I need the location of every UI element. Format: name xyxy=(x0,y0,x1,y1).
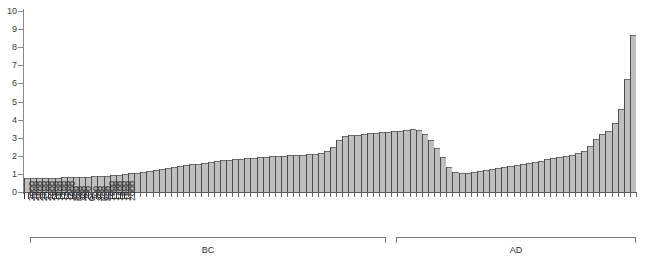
x-tick xyxy=(250,193,251,197)
x-tick xyxy=(452,193,453,197)
x-tick xyxy=(165,193,166,197)
x-tick xyxy=(238,193,239,197)
x-tick xyxy=(556,193,557,197)
bar-cap xyxy=(435,148,440,149)
y-tick xyxy=(18,83,23,84)
x-tick xyxy=(159,193,160,197)
bar-cap xyxy=(447,167,452,168)
x-tick xyxy=(416,193,417,197)
bar-cap xyxy=(631,35,636,36)
x-tick xyxy=(397,193,398,197)
x-tick xyxy=(532,193,533,197)
era-label-bc: BC xyxy=(30,246,386,255)
x-tick xyxy=(263,193,264,197)
x-tick xyxy=(299,193,300,197)
x-tick xyxy=(605,193,606,197)
y-tick xyxy=(18,29,23,30)
y-tick-label: 0 xyxy=(0,188,17,197)
era-bracket-bc xyxy=(30,237,386,243)
x-tick xyxy=(507,193,508,197)
x-tick xyxy=(544,193,545,197)
chart-root: 012345678910 300028002600240022002000180… xyxy=(0,0,650,269)
x-tick xyxy=(612,193,613,197)
y-tick xyxy=(18,47,23,48)
x-tick xyxy=(599,193,600,197)
x-tick xyxy=(189,193,190,197)
x-tick xyxy=(269,193,270,197)
era-bracket-ad xyxy=(396,237,636,243)
x-tick xyxy=(342,193,343,197)
y-tick-label: 10 xyxy=(0,7,17,16)
x-tick xyxy=(440,193,441,197)
x-tick xyxy=(318,193,319,197)
y-tick-label: 1 xyxy=(0,170,17,179)
x-tick xyxy=(636,193,637,197)
x-tick xyxy=(618,193,619,197)
x-tick xyxy=(275,193,276,197)
x-tick xyxy=(177,193,178,197)
era-label-ad: AD xyxy=(396,246,636,255)
x-tick xyxy=(520,193,521,197)
y-tick xyxy=(18,11,23,12)
x-tick xyxy=(330,193,331,197)
x-tick xyxy=(195,193,196,197)
x-tick xyxy=(226,193,227,197)
x-tick xyxy=(146,193,147,197)
x-tick-label: 2000 xyxy=(128,181,137,201)
x-tick xyxy=(312,193,313,197)
x-tick xyxy=(361,193,362,197)
x-tick xyxy=(428,193,429,197)
y-tick-label: 8 xyxy=(0,43,17,52)
x-tick xyxy=(434,193,435,197)
x-tick xyxy=(403,193,404,197)
x-tick xyxy=(477,193,478,197)
x-tick xyxy=(550,193,551,197)
x-tick xyxy=(465,193,466,197)
x-tick xyxy=(483,193,484,197)
x-tick xyxy=(201,193,202,197)
x-tick xyxy=(220,193,221,197)
x-tick xyxy=(501,193,502,197)
x-tick xyxy=(593,193,594,197)
x-tick xyxy=(569,193,570,197)
y-tick xyxy=(18,138,23,139)
x-tick xyxy=(526,193,527,197)
x-tick xyxy=(410,193,411,197)
x-tick xyxy=(348,193,349,197)
x-tick xyxy=(422,193,423,197)
x-tick xyxy=(489,193,490,197)
y-tick-label: 3 xyxy=(0,134,17,143)
x-tick xyxy=(379,193,380,197)
x-tick xyxy=(459,193,460,197)
x-tick xyxy=(495,193,496,197)
bar-cap xyxy=(441,157,446,158)
x-tick xyxy=(367,193,368,197)
x-tick xyxy=(336,193,337,197)
bar xyxy=(630,35,636,192)
x-tick xyxy=(538,193,539,197)
plot-area xyxy=(24,11,636,192)
x-tick xyxy=(630,193,631,197)
x-tick xyxy=(514,193,515,197)
y-tick-label: 9 xyxy=(0,25,17,34)
bar-cap xyxy=(423,134,428,135)
y-tick xyxy=(18,156,23,157)
bar-cap xyxy=(417,130,422,131)
y-tick-label: 4 xyxy=(0,116,17,125)
x-tick xyxy=(306,193,307,197)
x-tick xyxy=(208,193,209,197)
x-tick xyxy=(575,193,576,197)
x-tick xyxy=(183,193,184,197)
x-tick xyxy=(471,193,472,197)
x-tick xyxy=(171,193,172,197)
bar-series xyxy=(24,11,636,192)
x-tick xyxy=(446,193,447,197)
x-tick xyxy=(281,193,282,197)
y-tick-label: 6 xyxy=(0,79,17,88)
x-tick xyxy=(373,193,374,197)
x-tick xyxy=(624,193,625,197)
x-tick xyxy=(324,193,325,197)
x-tick xyxy=(287,193,288,197)
y-tick xyxy=(18,120,23,121)
x-tick-major xyxy=(24,193,25,199)
